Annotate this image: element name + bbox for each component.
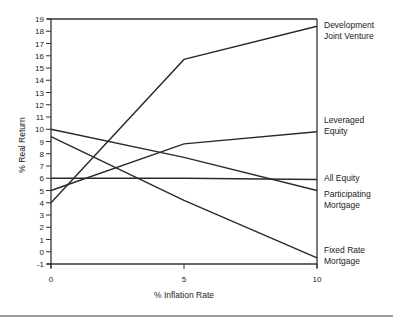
y-tick-label: 0 <box>40 248 45 257</box>
series-line-leveraged-equity <box>51 132 317 191</box>
series-line-all-equity <box>51 178 317 179</box>
y-axis-ticks: -1012345678910111213141516171819 <box>35 15 51 269</box>
series-label-all-equity: All Equity <box>324 173 360 183</box>
y-tick-label: 12 <box>35 101 44 110</box>
y-axis-title: % Real Return <box>17 117 27 173</box>
series-label-development-joint-venture: Development <box>324 20 375 30</box>
series-label-fixed-rate-mortgage: Mortgage <box>324 256 360 266</box>
bottom-divider <box>0 315 393 317</box>
series-label-participating-mortgage: Participating <box>324 189 371 199</box>
y-tick-label: 8 <box>40 150 45 159</box>
y-tick-label: 11 <box>36 113 45 122</box>
y-tick-label: 15 <box>35 64 44 73</box>
y-tick-label: 3 <box>40 211 45 220</box>
y-tick-label: 7 <box>40 162 45 171</box>
series-label-leveraged-equity: Leveraged <box>324 115 364 125</box>
y-tick-label: 5 <box>40 187 45 196</box>
series-label-leveraged-equity: Equity <box>324 126 348 136</box>
axes <box>47 19 317 268</box>
y-tick-label: 1 <box>40 236 45 245</box>
y-tick-label: 14 <box>35 76 44 85</box>
x-tick-label: 0 <box>49 275 54 284</box>
series-line-fixed-rate-mortgage <box>51 137 317 258</box>
series-lines <box>51 26 317 258</box>
y-tick-label: 18 <box>35 27 44 36</box>
line-chart: -1012345678910111213141516171819 0510 De… <box>0 0 393 318</box>
series-label-development-joint-venture: Joint Venture <box>324 31 374 41</box>
y-tick-label: -1 <box>37 260 45 269</box>
y-tick-label: 4 <box>40 199 45 208</box>
series-labels: DevelopmentJoint VentureLeveragedEquityA… <box>324 20 375 266</box>
y-tick-label: 17 <box>35 40 44 49</box>
y-tick-label: 9 <box>40 138 45 147</box>
y-tick-label: 16 <box>35 52 44 61</box>
x-axis-title: % Inflation Rate <box>154 290 214 300</box>
y-tick-label: 13 <box>35 89 44 98</box>
y-tick-label: 19 <box>35 15 44 24</box>
x-tick-label: 10 <box>313 275 322 284</box>
x-tick-label: 5 <box>182 275 187 284</box>
series-label-participating-mortgage: Mortgage <box>324 200 360 210</box>
y-tick-label: 2 <box>40 223 45 232</box>
x-axis-ticks: 0510 <box>49 264 322 284</box>
y-tick-label: 6 <box>40 174 45 183</box>
series-label-fixed-rate-mortgage: Fixed Rate <box>324 245 365 255</box>
y-tick-label: 10 <box>35 125 44 134</box>
